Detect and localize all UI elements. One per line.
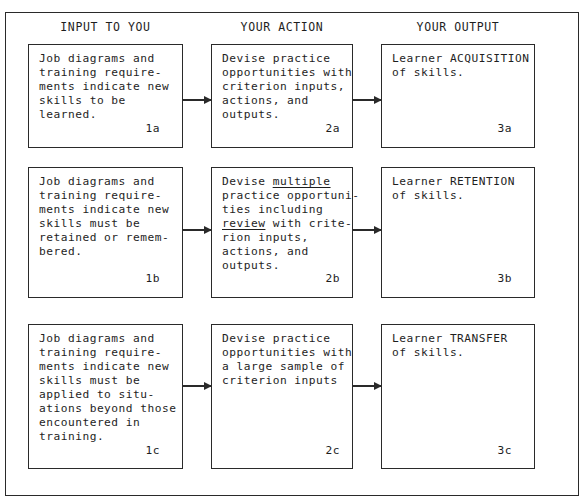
header-your-output: YOUR OUTPUT: [381, 20, 535, 34]
arrow-1b-to-2b: [183, 229, 211, 231]
box-1a-input: Job diagrams and training require- ments…: [28, 44, 183, 148]
box-2b-line7: outputs.: [222, 259, 280, 272]
box-3a-label: 3a: [498, 122, 512, 135]
box-2b-line4-suffix: with crite-: [265, 217, 352, 230]
box-1c-text: Job diagrams and training require- ments…: [39, 332, 178, 444]
box-2b-line3: ties including: [222, 203, 323, 216]
box-2b-line6: actions, and: [222, 245, 309, 258]
box-2b-line2: practice opportuni-: [222, 189, 359, 202]
box-2c-text: Devise practice opportunities with a lar…: [222, 332, 348, 388]
emphasis-multiple: multiple: [273, 175, 331, 188]
box-2c-label: 2c: [326, 444, 340, 457]
emphasis-review: review: [222, 217, 265, 230]
box-3a-output: Learner ACQUISITION of skills. 3a: [381, 44, 535, 148]
box-2b-action: Devise multiple practice opportuni- ties…: [211, 167, 353, 298]
arrow-2a-to-3a: [353, 99, 381, 101]
box-1b-text: Job diagrams and training require- ments…: [39, 175, 178, 259]
box-2a-text: Devise practice opportunities with crite…: [222, 52, 348, 122]
box-3c-text: Learner TRANSFER of skills.: [392, 332, 530, 360]
box-3b-output: Learner RETENTION of skills. 3b: [381, 167, 535, 298]
box-2a-label: 2a: [326, 122, 340, 135]
box-2b-line5: rion inputs,: [222, 231, 309, 244]
box-3c-label: 3c: [498, 444, 512, 457]
box-1a-text: Job diagrams and training require- ments…: [39, 52, 178, 122]
arrow-2b-to-3b: [353, 229, 381, 231]
box-3a-text: Learner ACQUISITION of skills.: [392, 52, 530, 80]
box-2b-line1-prefix: Devise: [222, 175, 273, 188]
box-3c-output: Learner TRANSFER of skills. 3c: [381, 324, 535, 469]
box-1c-input: Job diagrams and training require- ments…: [28, 324, 183, 469]
arrow-1a-to-2a: [183, 99, 211, 101]
header-your-action: YOUR ACTION: [211, 20, 353, 34]
box-2b-label: 2b: [326, 272, 340, 285]
box-2c-action: Devise practice opportunities with a lar…: [211, 324, 353, 469]
box-3b-label: 3b: [498, 272, 512, 285]
box-1c-label: 1c: [146, 444, 160, 457]
box-1b-label: 1b: [146, 272, 160, 285]
header-input-to-you: INPUT TO YOU: [28, 20, 183, 34]
arrow-1c-to-2c: [183, 385, 211, 387]
box-1a-label: 1a: [146, 122, 160, 135]
box-2b-text: Devise multiple practice opportuni- ties…: [222, 175, 348, 273]
box-1b-input: Job diagrams and training require- ments…: [28, 167, 183, 298]
arrow-2c-to-3c: [353, 385, 381, 387]
box-2a-action: Devise practice opportunities with crite…: [211, 44, 353, 148]
box-3b-text: Learner RETENTION of skills.: [392, 175, 530, 203]
